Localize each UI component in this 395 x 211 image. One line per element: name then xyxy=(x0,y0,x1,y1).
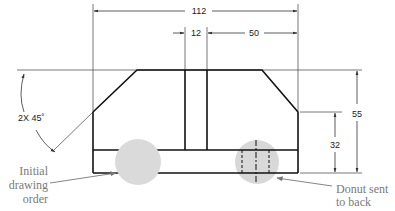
donut-front xyxy=(115,139,161,185)
note-donut-2: to back xyxy=(336,195,371,209)
dim-chamfer: 2X 45˚ xyxy=(18,113,45,123)
dim-50: 50 xyxy=(249,28,259,38)
note-initial-2: drawing xyxy=(9,178,48,192)
dim-112: 112 xyxy=(192,6,206,16)
note-initial-3: order xyxy=(23,192,48,206)
dim-12: 12 xyxy=(191,28,201,38)
extension-lines xyxy=(17,4,362,173)
dimension-lines xyxy=(21,11,357,172)
note-initial-1: Initial xyxy=(19,164,48,178)
technical-drawing: 112 12 50 55 32 2X 45˚ Initial drawing o… xyxy=(0,0,395,211)
dim-55: 55 xyxy=(352,109,362,119)
leader-right xyxy=(277,178,332,186)
dim-32: 32 xyxy=(330,140,340,150)
note-donut-1: Donut sent xyxy=(336,182,389,196)
leader-left xyxy=(50,173,116,183)
